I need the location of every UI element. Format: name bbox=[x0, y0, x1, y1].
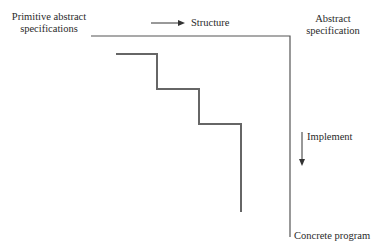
primitive-label-line2: specifications bbox=[6, 23, 92, 35]
abstract-spec-label: Abstract specification bbox=[293, 13, 373, 37]
abstract-label-line2: specification bbox=[293, 25, 373, 37]
refinement-staircase bbox=[116, 54, 241, 212]
abstraction-boundary-line bbox=[91, 36, 290, 237]
implement-arrow-icon bbox=[299, 132, 305, 166]
concrete-program-label: Concrete program bbox=[294, 230, 370, 242]
implement-label: Implement bbox=[307, 131, 353, 143]
primitive-label-line1: Primitive abstract bbox=[6, 11, 92, 23]
diagram-canvas: Primitive abstract specifications Struct… bbox=[0, 0, 390, 246]
abstract-label-line1: Abstract bbox=[293, 13, 373, 25]
primitive-specs-label: Primitive abstract specifications bbox=[6, 11, 92, 35]
structure-label: Structure bbox=[191, 17, 230, 29]
structure-arrow-icon bbox=[151, 20, 185, 26]
